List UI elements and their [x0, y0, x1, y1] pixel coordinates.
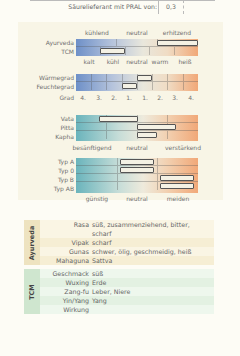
- divider: [158, 0, 159, 14]
- axis-label-kuehl: kühl: [107, 58, 120, 65]
- tick: 1.: [142, 94, 148, 101]
- tick: 4.: [80, 94, 86, 101]
- axis-label-heiss: heiß: [179, 58, 192, 65]
- chart-row-vata: [76, 115, 198, 123]
- range-bar: [160, 183, 194, 189]
- row-label-typ-a: Typ A: [58, 158, 74, 165]
- range-bar: [120, 159, 154, 165]
- table-row: Rasasüß, zusammenziehend, bitter, scharf: [40, 220, 214, 238]
- row-label-feuchtegrad: Feuchtegrad: [36, 83, 74, 90]
- pral-row: Säurelieferant mit PRAL von: 0,3: [0, 0, 240, 15]
- section-label: TCM: [24, 269, 40, 314]
- row-label-pitta: Pitta: [60, 124, 74, 131]
- chart-row-typ-0: [76, 166, 198, 174]
- tick: 3.: [96, 94, 102, 101]
- axis-label-meiden: meiden: [167, 195, 190, 202]
- tick: 2.: [157, 94, 163, 101]
- grad-chart: [76, 74, 198, 91]
- axis-label-erhitzend: erhitzend: [163, 29, 191, 36]
- pral-value: 0,3: [166, 3, 176, 10]
- range-bar: [100, 48, 125, 54]
- axis-label-kalt: kalt: [83, 58, 94, 65]
- divider: [30, 0, 215, 1]
- table-row: Yin/YangYang: [40, 296, 214, 305]
- axis-label-guenstig: günstig: [86, 195, 108, 202]
- ayurveda-section: Ayurveda Rasasüß, zusammenziehend, bitte…: [24, 220, 214, 265]
- chart-row-tcm: [76, 47, 198, 55]
- chart-row-waermegrad: [76, 74, 198, 82]
- chart-row-typ-a: [76, 158, 198, 166]
- chart-row-feuchtegrad: [76, 82, 198, 90]
- axis-label-neutral: neutral: [126, 29, 147, 36]
- range-bar: [157, 40, 198, 46]
- row-label-kapha: Kapha: [55, 133, 74, 140]
- range-bar: [122, 83, 137, 89]
- axis-label-neutral4: neutral: [126, 195, 147, 202]
- axis-title-grad: Grad: [59, 94, 74, 101]
- table-row: WuxingErde: [40, 278, 214, 287]
- section-label: Ayurveda: [24, 220, 40, 265]
- axis-label-kuehlend: kühlend: [85, 29, 109, 36]
- tick: 1.: [126, 94, 132, 101]
- dosha-chart: [76, 115, 198, 141]
- table-row: Wirkung: [40, 305, 214, 314]
- thermal-chart: [76, 39, 198, 56]
- table-row: MahagunaSattva: [40, 256, 214, 265]
- chart-row-ayurveda: [76, 39, 198, 47]
- divider: [183, 0, 184, 14]
- axis-label-neutral3: neutral: [126, 144, 147, 151]
- chart-row-kapha: [76, 131, 198, 139]
- tcm-section: TCM Geschmacksüß WuxingErde Zang-fuLeber…: [24, 269, 214, 314]
- table-row: Zang-fuLeber, Niere: [40, 287, 214, 296]
- axis-label-neutral2: neutral: [126, 58, 147, 65]
- chart-row-pitta: [76, 123, 198, 131]
- range-bar: [99, 116, 138, 122]
- table-row: Gunasschwer, ölig, geschmeidig, heiß: [40, 247, 214, 256]
- row-label-typ-ab: Typ AB: [54, 185, 74, 192]
- range-bar: [137, 132, 157, 138]
- table-row: Geschmacksüß: [40, 269, 214, 278]
- axis-label-verstaerkend: verstärkend: [165, 144, 201, 151]
- range-bar: [137, 124, 176, 130]
- blood-type-chart: [76, 158, 198, 193]
- pral-label: Säurelieferant mit PRAL von:: [68, 3, 157, 10]
- row-label-waermegrad: Wärmegrad: [39, 74, 74, 81]
- chart-row-typ-b: [76, 174, 198, 182]
- row-label-tcm: TCM: [61, 48, 74, 55]
- range-bar: [120, 167, 154, 173]
- table-row: Vipakscharf: [40, 238, 214, 247]
- row-label-typ-b: Typ B: [58, 176, 74, 183]
- row-label-vata: Vata: [61, 115, 74, 122]
- tick: 2.: [111, 94, 117, 101]
- tick: 3.: [172, 94, 178, 101]
- range-bar: [160, 175, 194, 181]
- chart-row-typ-ab: [76, 182, 198, 190]
- axis-label-warm: warm: [152, 58, 169, 65]
- row-label-ayurveda: Ayurveda: [46, 39, 74, 46]
- row-label-typ-0: Typ 0: [58, 167, 74, 174]
- range-bar: [137, 75, 152, 81]
- properties-table: Ayurveda Rasasüß, zusammenziehend, bitte…: [24, 220, 214, 314]
- tick: 4.: [188, 94, 194, 101]
- axis-label-besaenftigend: besänftigend: [72, 144, 111, 151]
